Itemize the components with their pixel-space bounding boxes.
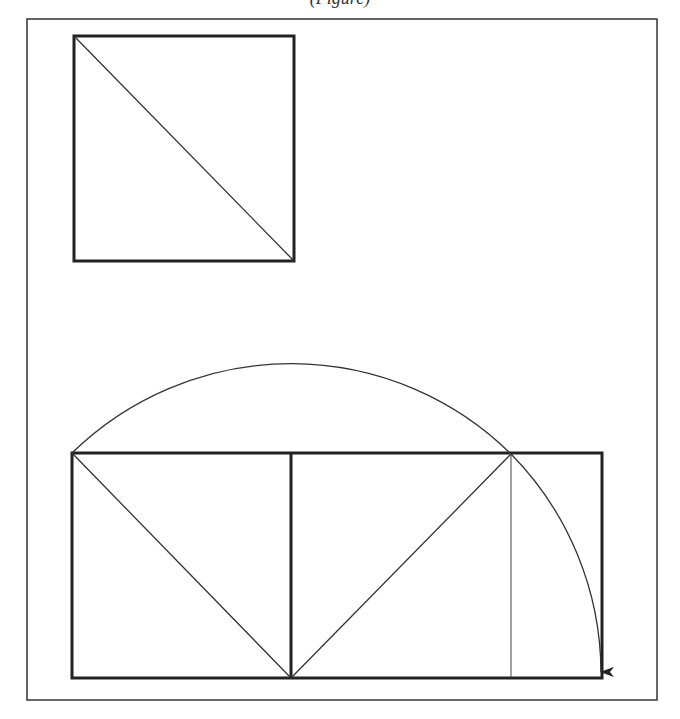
construction-diagram bbox=[0, 0, 680, 719]
top-square bbox=[74, 36, 294, 261]
arrow-arc bbox=[511, 454, 601, 672]
bottom-construction bbox=[72, 364, 602, 678]
construction-arc bbox=[72, 364, 511, 454]
left-diagonal bbox=[72, 453, 291, 678]
golden-rectangle bbox=[72, 453, 602, 678]
right-diagonal bbox=[291, 454, 511, 678]
outer-frame bbox=[27, 19, 657, 700]
top-square-diagonal bbox=[74, 36, 294, 261]
